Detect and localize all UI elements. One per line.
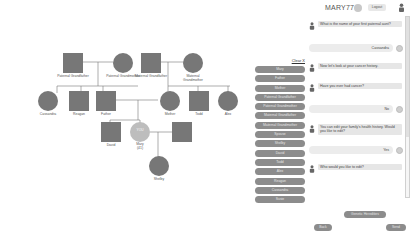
chat-scrollbar[interactable]	[405, 16, 410, 198]
node-paternal-grandfather[interactable]	[63, 53, 83, 73]
relative-button-paternal-grandmother[interactable]: Paternal Grandmother	[255, 103, 305, 110]
label-shelby: Shelby	[142, 177, 176, 181]
answer-text: Yes	[309, 146, 393, 154]
user-avatar[interactable]	[354, 4, 362, 12]
relative-button-father[interactable]: Father	[255, 75, 305, 82]
question-text: What is the name of your first paternal …	[318, 21, 402, 27]
assistant-icon[interactable]	[398, 3, 405, 13]
send-button[interactable]: Send	[386, 224, 406, 231]
relative-button-maternal-grandmother[interactable]: Maternal Grandmother	[255, 122, 305, 129]
relative-button-todd[interactable]: Todd	[255, 159, 305, 166]
chat-question: What is the name of your first paternal …	[309, 21, 402, 31]
node-cassandra[interactable]	[38, 91, 58, 111]
relative-button-shelby[interactable]: Shelby	[255, 140, 305, 147]
chat-answer: Cassandra	[309, 44, 402, 52]
node-spouse[interactable]	[172, 122, 192, 142]
label-paternal-grandfather: Paternal Grandfather	[56, 74, 90, 78]
node-alex[interactable]	[218, 91, 238, 111]
chat-question: You can edit your family's health histor…	[309, 124, 402, 134]
label-mary-age: (41)	[123, 146, 157, 150]
question-text: Who would you like to edit?	[318, 164, 402, 170]
question-text: Now let's look at your cancer history.	[318, 63, 402, 69]
label-father: Father	[89, 112, 123, 116]
label-alex: Alex	[211, 112, 245, 116]
node-shelby[interactable]	[149, 156, 169, 176]
back-button[interactable]: Back	[314, 224, 332, 231]
user-answer-avatar-icon	[396, 147, 403, 154]
chat-answer: Yes	[309, 146, 402, 154]
chat-history: What is the name of your first paternal …	[306, 16, 405, 198]
relatives-list: Mary Father Mother Paternal Grandfather …	[255, 66, 305, 205]
user-answer-avatar-icon	[396, 45, 403, 52]
question-text: You can edit your family's health histor…	[318, 124, 402, 135]
assistant-icon	[309, 165, 315, 173]
relative-button-spouse[interactable]: Spouse	[255, 131, 305, 138]
username: MARY77	[325, 4, 354, 11]
chat-question: Have you ever had cancer?	[309, 83, 402, 90]
node-maternal-grandmother[interactable]	[183, 53, 203, 73]
user-answer-avatar-icon	[396, 106, 403, 113]
node-todd[interactable]	[189, 91, 209, 111]
app-root: Paternal Grandfather Paternal Grandmothe…	[0, 0, 411, 236]
node-mother[interactable]	[160, 91, 180, 111]
relative-button-david[interactable]: David	[255, 150, 305, 157]
node-paternal-grandmother[interactable]	[113, 53, 133, 73]
pedigree-canvas: Paternal Grandfather Paternal Grandmothe…	[0, 0, 252, 236]
node-maternal-grandfather[interactable]	[141, 53, 161, 73]
relative-button-paternal-grandfather[interactable]: Paternal Grandfather	[255, 94, 305, 101]
relative-button-reagan[interactable]: Reagan	[255, 178, 305, 185]
relative-button-mary[interactable]: Mary	[255, 66, 305, 73]
label-cassandra: Cassandra	[31, 112, 65, 116]
relative-button-cassandra[interactable]: Cassandra	[255, 187, 305, 194]
assistant-icon	[309, 64, 315, 72]
relative-button-alex[interactable]: Alex	[255, 168, 305, 175]
node-david[interactable]	[101, 122, 121, 142]
label-maternal-grandfather: Maternal Grandfather	[134, 74, 168, 78]
node-father[interactable]	[96, 91, 116, 111]
assistant-icon	[309, 125, 315, 133]
assistant-icon	[309, 22, 315, 30]
question-text: Have you ever had cancer?	[318, 83, 402, 89]
relative-button-susie[interactable]: Susie	[255, 196, 305, 203]
label-maternal-grandmother: Maternal Grandmother	[176, 74, 210, 82]
chat-question: Who would you like to edit?	[309, 164, 402, 171]
chat-scroll-thumb[interactable]	[406, 17, 409, 137]
chat-answer: No	[309, 105, 402, 113]
self-you-label: YOU	[130, 129, 150, 133]
genetic-heredities-button[interactable]: Genetic Heredities	[344, 211, 386, 218]
clear-link[interactable]: Clear X	[292, 58, 305, 63]
chat-panel: MARY77 Logout What is the name of your f…	[306, 0, 411, 236]
answer-text: Cassandra	[309, 44, 393, 52]
node-mary-self[interactable]: YOU	[130, 122, 150, 142]
chat-question: Now let's look at your cancer history.	[309, 63, 402, 70]
relative-button-mother[interactable]: Mother	[255, 85, 305, 92]
pedigree-lines	[0, 0, 252, 236]
logout-button[interactable]: Logout	[368, 4, 386, 11]
panel-header: MARY77 Logout	[306, 0, 411, 16]
node-reagan[interactable]	[69, 91, 89, 111]
answer-text: No	[309, 105, 393, 113]
relative-button-maternal-grandfather[interactable]: Maternal Grandfather	[255, 112, 305, 119]
assistant-icon	[309, 84, 315, 92]
